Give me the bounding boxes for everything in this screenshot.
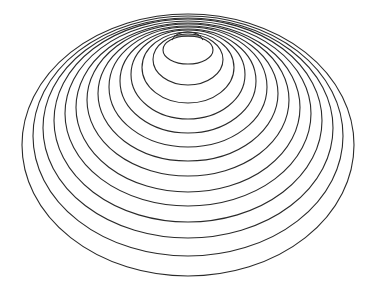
ring-4: [131, 30, 245, 119]
ring-8: [87, 24, 289, 176]
ring-7: [98, 26, 278, 161]
ring-2: [153, 34, 223, 85]
ring-12: [43, 18, 333, 238]
ring-13: [33, 16, 343, 256]
ring-group: [22, 14, 354, 276]
nested-ellipses-figure: [0, 0, 369, 288]
ring-5: [120, 29, 256, 133]
ring-9: [76, 23, 300, 192]
ring-1: [163, 36, 213, 64]
ring-3: [142, 32, 234, 103]
